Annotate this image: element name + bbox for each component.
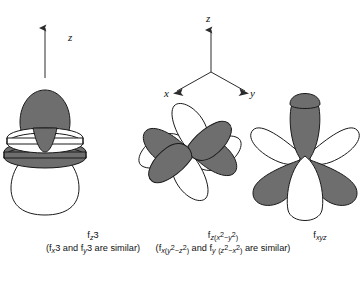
axis-triad-center [173, 30, 249, 96]
caption-fzx2y2-main: fz(x2−y2) [138, 230, 308, 242]
axis-label-y-center: y [250, 88, 255, 99]
axis-label-z-left: z [68, 32, 72, 43]
lobe-top-cap-shaded [290, 94, 320, 109]
orbital-fxyz-drawing [251, 94, 360, 221]
orbital-fzx2y2-drawing [139, 103, 241, 200]
axis-y-center [211, 72, 249, 96]
caption-fzx2y2-sub: (fx(y2−z2) and fy (z2−x2) are similar) [138, 243, 308, 255]
axis-label-z-center: z [206, 13, 210, 24]
axis-x-center [173, 72, 211, 96]
orbital-fz3-drawing [4, 28, 86, 215]
caption-fxyz-main: fxyz [294, 230, 346, 242]
caption-fzx2y2: fz(x2−y2) (fx(y2−z2) and fy (z2−x2) are … [138, 230, 308, 255]
axis-label-x-center: x [164, 88, 169, 99]
caption-fxyz: fxyz [294, 230, 346, 243]
f-orbital-figure: .shaded { fill: #6e6e6e; stroke: #1a1a1a… [0, 0, 361, 282]
